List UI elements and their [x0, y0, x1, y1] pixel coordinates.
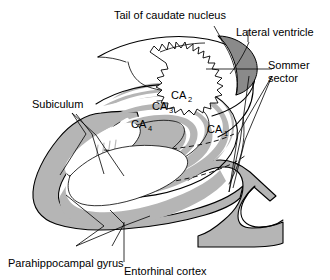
- label-ca4-subscript: 4: [148, 124, 152, 133]
- hippocampus-diagram: Tail of caudate nucleus Lateral ventricl…: [0, 0, 330, 280]
- label-tail-of-caudate-nucleus: Tail of caudate nucleus: [114, 9, 226, 21]
- label-ca3-subscript: 3: [169, 106, 173, 115]
- label-subiculum: Subiculum: [32, 98, 83, 110]
- label-lateral-ventricle: Lateral ventricle: [236, 26, 314, 38]
- superior-arc-tail: [98, 57, 126, 62]
- label-ca1-subscript: 1: [224, 129, 228, 138]
- entorhinal-cortex-shape: [188, 160, 283, 247]
- label-ca2-subscript: 2: [188, 95, 192, 104]
- label-parahippocampal-gyrus: Parahippocampal gyrus: [8, 257, 124, 269]
- label-ca1-base: CA: [207, 123, 223, 135]
- label-ca2-base: CA: [171, 89, 187, 101]
- label-ca4-base: CA: [131, 118, 147, 130]
- label-entorhinal-cortex: Entorhinal cortex: [124, 265, 207, 277]
- anatomy-illustration: [33, 36, 283, 247]
- label-sommer-sector-line1: Sommer: [268, 59, 310, 71]
- leader-tail-of-caudate: [214, 26, 222, 40]
- label-ca3-base: CA: [152, 100, 168, 112]
- label-sommer-sector-line2: sector: [268, 72, 298, 84]
